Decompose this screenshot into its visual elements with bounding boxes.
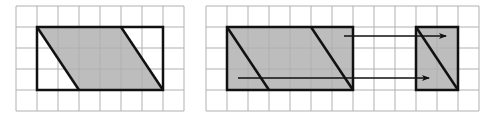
right-figure <box>206 6 479 111</box>
left-grid <box>16 6 184 111</box>
diagram <box>0 0 488 119</box>
left-figure <box>16 6 184 111</box>
